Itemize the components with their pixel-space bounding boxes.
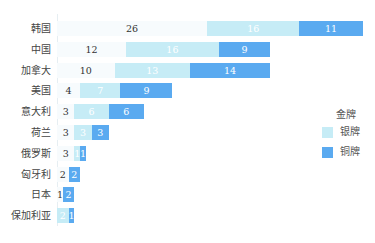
silver-bar-segment[interactable]: 3	[74, 125, 91, 140]
bronze-bar-segment[interactable]: 9	[219, 42, 271, 57]
gold-bar-segment[interactable]: 12	[57, 42, 126, 57]
bar-row: 保加利亚21	[0, 208, 375, 223]
category-label: 意大利	[21, 104, 51, 119]
legend-label-bronze: 铜牌	[340, 146, 360, 158]
bronze-swatch-icon	[322, 147, 333, 158]
silver-bar-segment[interactable]: 16	[126, 42, 218, 57]
bar-row: 美国479	[0, 83, 375, 98]
category-label: 荷兰	[31, 125, 51, 140]
bronze-bar-segment[interactable]: 1	[69, 208, 75, 223]
silver-bar-segment[interactable]: 13	[115, 63, 190, 78]
bronze-bar-segment[interactable]: 2	[63, 187, 75, 202]
gold-bar-segment[interactable]: 3	[57, 125, 74, 140]
bar-row: 韩国261611	[0, 21, 375, 36]
gold-bar-segment[interactable]: 4	[57, 83, 80, 98]
silver-swatch-icon	[322, 127, 333, 138]
gold-bar-segment[interactable]: 10	[57, 63, 115, 78]
bar-row: 中国12169	[0, 42, 375, 57]
gold-bar-segment[interactable]: 3	[57, 146, 74, 161]
legend-title: 金牌	[336, 106, 356, 121]
silver-bar-segment[interactable]: 16	[207, 21, 299, 36]
category-label: 日本	[31, 187, 51, 202]
silver-bar-segment[interactable]: 2	[57, 208, 69, 223]
gold-bar-segment[interactable]: 2	[57, 167, 69, 182]
bar-row: 匈牙利22	[0, 167, 375, 182]
silver-bar-segment[interactable]: 7	[80, 83, 120, 98]
medal-stacked-bar-chart: 韩国261611中国12169加拿大101314美国479意大利366荷兰333…	[0, 0, 375, 243]
category-label: 保加利亚	[11, 208, 51, 223]
bronze-bar-segment[interactable]: 14	[190, 63, 271, 78]
category-label: 匈牙利	[21, 167, 51, 182]
category-label: 美国	[31, 83, 51, 98]
bar-row: 日本12	[0, 187, 375, 202]
bronze-bar-segment[interactable]: 6	[109, 104, 144, 119]
category-label: 韩国	[31, 21, 51, 36]
silver-bar-segment[interactable]: 6	[74, 104, 109, 119]
bronze-bar-segment[interactable]: 1	[80, 146, 86, 161]
bar-row: 意大利366	[0, 104, 375, 119]
category-label: 俄罗斯	[21, 146, 51, 161]
bronze-bar-segment[interactable]: 2	[69, 167, 81, 182]
bar-row: 俄罗斯311	[0, 146, 375, 161]
category-label: 中国	[31, 42, 51, 57]
bronze-bar-segment[interactable]: 9	[120, 83, 172, 98]
gold-bar-segment[interactable]: 3	[57, 104, 74, 119]
bronze-bar-segment[interactable]: 3	[92, 125, 109, 140]
legend-label-silver: 银牌	[340, 126, 360, 138]
gold-bar-segment[interactable]: 26	[57, 21, 207, 36]
category-label: 加拿大	[21, 63, 51, 78]
bronze-bar-segment[interactable]: 11	[299, 21, 362, 36]
bar-row: 荷兰333	[0, 125, 375, 140]
bar-row: 加拿大101314	[0, 63, 375, 78]
